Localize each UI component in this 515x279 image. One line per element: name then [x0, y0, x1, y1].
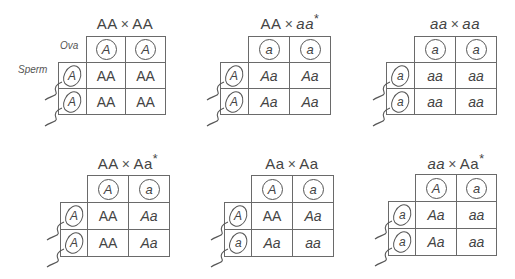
- offspring-cell: aa: [455, 88, 497, 115]
- cross-title: aa×Aa*: [427, 152, 484, 172]
- ovum-icon: a: [139, 179, 160, 200]
- cross-symbol: ×: [451, 16, 460, 32]
- ovum-icon: a: [425, 39, 446, 60]
- offspring-cell: Aa: [292, 202, 334, 230]
- offspring-cell: Aa: [289, 62, 331, 89]
- ova-label: Ova: [60, 40, 78, 51]
- offspring-cell: AA: [251, 202, 293, 230]
- cross-symbol: ×: [122, 156, 131, 172]
- ovum-icon: a: [300, 39, 321, 60]
- offspring-cell: Aa: [251, 229, 293, 257]
- offspring-cell: aa: [292, 229, 334, 257]
- offspring-cell: Aa: [128, 229, 170, 257]
- ovum-icon: A: [96, 39, 117, 60]
- parent-genotype: Aa: [299, 155, 318, 172]
- parent-genotype: aa: [296, 15, 314, 32]
- offspring-cell: AA: [125, 88, 166, 115]
- ovum-cell: a: [289, 36, 331, 63]
- cross-title: AA×AA: [97, 12, 154, 32]
- offspring-cell: AA: [86, 62, 126, 89]
- offspring-cell: aa: [414, 62, 456, 89]
- offspring-cell: aa: [414, 88, 456, 115]
- ovum-icon: A: [262, 179, 283, 200]
- cross-symbol: ×: [285, 16, 294, 32]
- sperm-tail-icon: [208, 220, 230, 272]
- ovum-cell: A: [415, 174, 457, 202]
- ovum-cell: A: [125, 36, 166, 63]
- ovum-icon: a: [466, 178, 487, 199]
- offspring-cell: Aa: [248, 88, 290, 115]
- offspring-cell: AA: [86, 88, 126, 115]
- sperm-tail-icon: [204, 80, 226, 130]
- parent-genotype: aa: [427, 155, 445, 172]
- ovum-cell: A: [87, 175, 129, 203]
- offspring-cell: AA: [87, 202, 129, 230]
- cross-title: AA×Aa*: [98, 152, 158, 172]
- parent-genotype: Aa: [133, 155, 152, 172]
- asterisk: *: [153, 152, 158, 166]
- sperm-tail-icon: [370, 80, 392, 130]
- ovum-cell: a: [455, 36, 497, 63]
- ovum-icon: A: [426, 178, 447, 199]
- ovum-cell: A: [86, 36, 126, 63]
- sperm-tail-icon: [372, 219, 394, 271]
- cross-symbol: ×: [448, 156, 457, 172]
- offspring-cell: Aa: [415, 201, 457, 229]
- offspring-cell: aa: [455, 62, 497, 89]
- sperm-tail-icon: [42, 80, 64, 130]
- ovum-icon: A: [98, 179, 119, 200]
- ovum-cell: A: [251, 175, 293, 203]
- asterisk: *: [314, 12, 319, 26]
- sperm-label: Sperm: [18, 64, 47, 75]
- parent-genotype: AA: [132, 15, 153, 32]
- ovum-icon: a: [259, 39, 280, 60]
- ovum-cell: a: [128, 175, 170, 203]
- cross-title: AA×aa*: [261, 12, 320, 32]
- offspring-cell: Aa: [289, 88, 331, 115]
- sperm-tail-icon: [44, 220, 66, 272]
- offspring-cell: aa: [456, 201, 497, 229]
- offspring-cell: Aa: [415, 228, 457, 256]
- offspring-cell: AA: [125, 62, 166, 89]
- parent-genotype: aa: [462, 15, 480, 32]
- ovum-cell: a: [456, 174, 497, 202]
- parent-genotype: AA: [261, 15, 282, 32]
- parent-genotype: Aa: [265, 155, 284, 172]
- cross-symbol: ×: [288, 156, 297, 172]
- offspring-cell: Aa: [248, 62, 290, 89]
- ovum-icon: A: [135, 39, 156, 60]
- cross-title: aa×aa: [430, 12, 480, 32]
- ovum-cell: a: [248, 36, 290, 63]
- ovum-icon: a: [466, 39, 487, 60]
- cross-title: Aa×Aa: [265, 152, 318, 172]
- cross-symbol: ×: [121, 16, 130, 32]
- offspring-cell: AA: [87, 229, 129, 257]
- offspring-cell: Aa: [128, 202, 170, 230]
- parent-genotype: AA: [97, 15, 118, 32]
- ovum-cell: a: [292, 175, 334, 203]
- parent-genotype: aa: [430, 15, 448, 32]
- offspring-cell: aa: [456, 228, 497, 256]
- parent-genotype: AA: [98, 155, 119, 172]
- asterisk: *: [479, 152, 484, 166]
- parent-genotype: Aa: [460, 155, 479, 172]
- ovum-icon: a: [303, 179, 324, 200]
- ovum-cell: a: [414, 36, 456, 63]
